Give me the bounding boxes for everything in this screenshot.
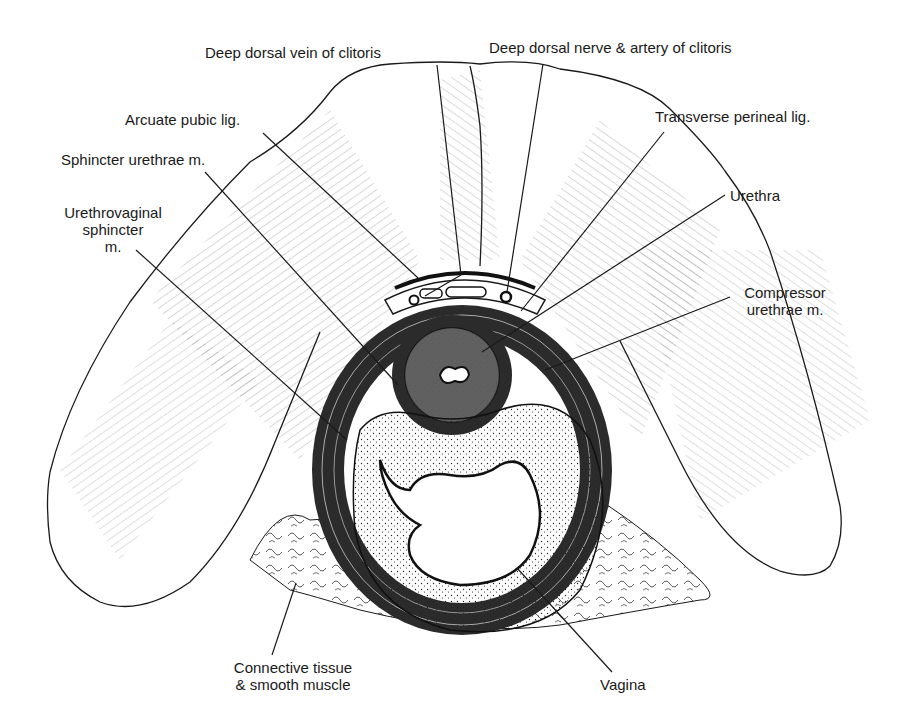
label-sphincter-urethrae: Sphincter urethrae m. [61, 151, 205, 168]
label-line: Urethrovaginal [48, 204, 178, 221]
label-urethrovaginal-sphincter: Urethrovaginal sphincter m. [48, 204, 178, 255]
dorsal-vessel-left [410, 296, 419, 305]
label-line: m. [48, 238, 178, 255]
label-line: urethrae m. [735, 301, 835, 318]
label-transverse-perineal-lig: Transverse perineal lig. [655, 108, 810, 125]
label-deep-dorsal-nerve-artery: Deep dorsal nerve & artery of clitoris [489, 39, 732, 56]
label-line: Compressor [735, 284, 835, 301]
label-compressor-urethrae: Compressor urethrae m. [735, 284, 835, 318]
deep-dorsal-artery [501, 292, 511, 302]
label-connective-tissue: Connective tissue & smooth muscle [213, 659, 373, 693]
deep-dorsal-vein [446, 287, 486, 297]
urethral-lumen [440, 367, 469, 383]
label-line: Connective tissue [213, 659, 373, 676]
label-line: sphincter [48, 221, 178, 238]
label-arcuate-pubic-lig: Arcuate pubic lig. [125, 111, 240, 128]
label-vagina: Vagina [600, 676, 646, 693]
label-line: & smooth muscle [213, 676, 373, 693]
label-urethra: Urethra [730, 187, 780, 204]
label-deep-dorsal-vein: Deep dorsal vein of clitoris [205, 44, 381, 61]
